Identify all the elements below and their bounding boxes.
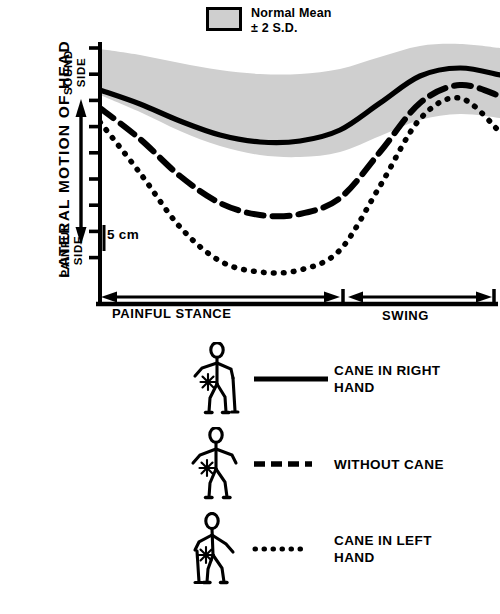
stick-figure-no-cane-icon [186, 427, 248, 501]
stick-figure-cane-right-icon [186, 342, 248, 416]
x-axis-label-swing: SWING [382, 308, 429, 323]
series-legend-label-cane-right: CANE IN RIGHT HAND [334, 362, 440, 396]
pain-starburst-icon [201, 374, 216, 390]
line-key-dotted [252, 538, 330, 560]
x-axis-label-painful-stance: PAINFUL STANCE [112, 306, 232, 321]
gait-chart [0, 0, 500, 340]
series-legend-row-cane-left: CANE IN LEFT HAND [186, 512, 432, 586]
direction-arrow [76, 99, 87, 245]
series-legend-row-without-cane: WITHOUT CANE [186, 427, 444, 501]
line-key-solid [252, 368, 330, 390]
pain-starburst-icon [200, 460, 215, 476]
series-legend-label-without-cane: WITHOUT CANE [334, 456, 444, 473]
series-legend-row-cane-right: CANE IN RIGHT HAND [186, 342, 440, 416]
stick-figure-cane-left-icon [186, 512, 248, 586]
pain-starburst-icon [199, 547, 214, 563]
series-legend-label-cane-left: CANE IN LEFT HAND [334, 532, 432, 566]
line-key-dashed [252, 453, 330, 475]
